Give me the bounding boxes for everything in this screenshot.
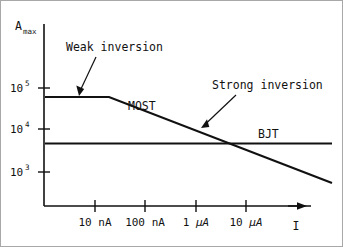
x-tick-value-10ua: 10 [229, 216, 242, 229]
y-tick-label-1e3-exp: 3 [25, 163, 30, 172]
most-series-label: MOST [128, 99, 156, 113]
x-tick-label-10ua: 10 μA [229, 216, 262, 229]
x-tick-label-100na: 100 nA [125, 216, 165, 229]
x-tick-unit-10ua: μA [248, 216, 262, 229]
x-axis-title: I [293, 219, 300, 233]
bjt-series-label: BJT [258, 127, 279, 141]
x-tick-value-100na: 100 [125, 216, 145, 229]
weak-inversion-leader-line [81, 57, 97, 90]
x-tick-label-1ua: 1 μA [183, 216, 210, 229]
x-tick-unit-100na: nA [152, 216, 166, 229]
x-tick-unit-10na: nA [98, 216, 112, 229]
y-tick-label-1e3-base: 10 [10, 166, 23, 179]
y-tick-label-1e5-exp: 5 [25, 79, 30, 88]
strong-inversion-arrowhead [201, 119, 209, 128]
weak-inversion-label: Weak inversion [66, 40, 163, 54]
x-tick-label-10na: 10 nA [78, 216, 111, 229]
x-tick-value-10na: 10 [78, 216, 91, 229]
gain-vs-current-figure: 10 5 10 4 10 3 A max 10 nA 100 nA 1 μA 1… [0, 0, 343, 247]
x-tick-labels: 10 nA 100 nA 1 μA 10 μA [78, 216, 262, 229]
most-curve [45, 97, 332, 183]
weak-inversion-annotation: Weak inversion [66, 40, 163, 96]
weak-inversion-arrowhead [76, 86, 84, 96]
y-tick-label-1e5-base: 10 [10, 82, 23, 95]
figure-border [1, 1, 343, 247]
y-axis-title: A max [15, 19, 37, 36]
x-tick-unit-1ua: μA [195, 216, 209, 229]
y-tick-labels: 10 5 10 4 10 3 [10, 79, 30, 179]
strong-inversion-label: Strong inversion [212, 78, 323, 92]
x-tick-value-1ua: 1 [183, 216, 190, 229]
y-axis-title-main: A [15, 19, 22, 33]
y-tick-label-1e4-base: 10 [10, 123, 23, 136]
strong-inversion-annotation: Strong inversion [201, 78, 323, 128]
y-tick-label-1e4-exp: 4 [25, 120, 30, 129]
strong-inversion-leader-line [206, 95, 237, 124]
y-axis-title-subscript: max [23, 27, 37, 36]
